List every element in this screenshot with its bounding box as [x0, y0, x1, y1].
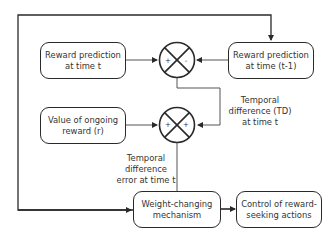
box-label-line2: seeking actions — [241, 210, 317, 221]
box-label-line2: reward (r) — [48, 126, 118, 137]
box-label-line1: Reward prediction — [45, 50, 121, 61]
junction2-plus-sign-left: + — [163, 120, 173, 131]
td-error-label-line2: difference — [115, 164, 177, 175]
box-label-line1: Weight-changing — [142, 199, 213, 210]
box-label-line2: mechanism — [142, 210, 213, 221]
junction1-plus-sign: + — [163, 56, 173, 67]
td-error-label: Temporal difference error at time t — [115, 153, 177, 186]
box-label-line2: at time (t-1) — [233, 61, 309, 72]
junction1-minus-sign: - — [181, 56, 191, 67]
box-reward-prediction-t-minus-1: Reward prediction at time (t-1) — [228, 42, 314, 79]
box-label-line1: Value of ongoing — [48, 115, 118, 126]
box-reward-prediction-t: Reward prediction at time t — [40, 42, 126, 79]
box-weight-changing-mechanism: Weight-changing mechanism — [133, 191, 221, 228]
td-label-line3: at time t — [225, 117, 295, 128]
box-control-reward-seeking: Control of reward- seeking actions — [236, 191, 322, 228]
junction2-plus-sign-right: + — [181, 120, 191, 131]
box-value-ongoing-reward: Value of ongoing reward (r) — [40, 107, 126, 144]
td-label-line2: difference (TD) — [225, 106, 295, 117]
td-label: Temporal difference (TD) at time t — [225, 95, 295, 128]
box-label-line1: Reward prediction — [233, 50, 309, 61]
td-error-label-line1: Temporal — [115, 153, 177, 164]
td-label-line1: Temporal — [225, 95, 295, 106]
td-error-label-line3: error at time t — [115, 175, 177, 186]
box-label-line2: at time t — [45, 61, 121, 72]
box-label-line1: Control of reward- — [241, 199, 317, 210]
